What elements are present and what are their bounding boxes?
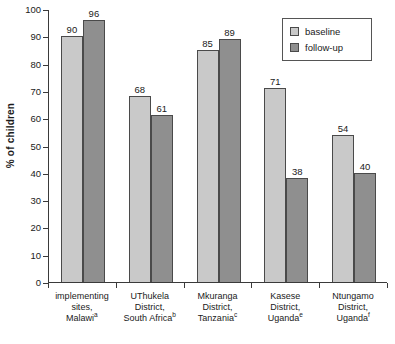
- legend-item-follow-up: follow-up: [290, 41, 364, 54]
- y-tick-label: 40: [0, 168, 46, 180]
- legend-label-baseline: baseline: [305, 26, 340, 37]
- x-tick-mark: [116, 283, 117, 288]
- y-tick-label: 60: [0, 113, 46, 125]
- legend-label-follow-up: follow-up: [305, 42, 343, 53]
- bar-chart-figure: % of children 0102030405060708090100 909…: [0, 0, 395, 344]
- legend-swatch-baseline: [290, 27, 299, 36]
- y-tick-label: 90: [0, 31, 46, 43]
- bar-follow-up-2: 89: [219, 39, 241, 282]
- bar-follow-up-4: 40: [354, 173, 376, 282]
- y-tick-label: 20: [0, 222, 46, 234]
- legend-swatch-follow-up: [290, 43, 299, 52]
- bar-follow-up-1: 61: [151, 115, 173, 282]
- y-tick-label: 100: [0, 4, 46, 16]
- bar-value-label: 89: [224, 27, 235, 38]
- bar-value-label: 85: [202, 38, 213, 49]
- x-axis-label-line: Ugandaf: [310, 313, 395, 324]
- chart-legend: baseline follow-up: [282, 18, 372, 61]
- bar-value-label: 40: [360, 161, 371, 172]
- footnote-marker: a: [94, 311, 98, 318]
- y-tick-label: 80: [0, 59, 46, 71]
- y-tick-label: 70: [0, 86, 46, 98]
- x-axis-label-line: District,: [310, 302, 395, 313]
- x-tick-mark: [319, 283, 320, 288]
- bar-follow-up-3: 38: [286, 178, 308, 282]
- y-tick-label: 30: [0, 195, 46, 207]
- y-tick-label: 10: [0, 250, 46, 262]
- footnote-marker: f: [368, 311, 370, 318]
- bar-baseline-2: 85: [197, 50, 219, 282]
- bar-value-label: 90: [67, 24, 78, 35]
- bar-value-label: 38: [292, 166, 303, 177]
- footnote-marker: e: [299, 311, 303, 318]
- legend-item-baseline: baseline: [290, 25, 364, 38]
- bar-follow-up-0: 96: [83, 20, 105, 282]
- bar-baseline-3: 71: [264, 88, 286, 282]
- bar-baseline-0: 90: [61, 36, 83, 282]
- bar-value-label: 61: [156, 103, 167, 114]
- x-tick-mark: [48, 283, 49, 288]
- x-tick-mark: [251, 283, 252, 288]
- y-tick-label: 50: [0, 141, 46, 153]
- bar-value-label: 54: [338, 123, 349, 134]
- bar-baseline-1: 68: [129, 96, 151, 282]
- bar-value-label: 71: [270, 76, 281, 87]
- y-tick-label: 0: [0, 277, 46, 289]
- figure-caption: [3, 336, 393, 344]
- x-tick-mark: [387, 283, 388, 288]
- x-axis-label-line: Ntungamo: [310, 291, 395, 302]
- x-tick-mark: [184, 283, 185, 288]
- footnote-marker: c: [234, 311, 237, 318]
- bar-value-label: 68: [134, 84, 145, 95]
- bar-value-label: 96: [89, 8, 100, 19]
- x-axis-group-label: NtungamoDistrict,Ugandaf: [310, 291, 395, 324]
- bar-baseline-4: 54: [332, 135, 354, 282]
